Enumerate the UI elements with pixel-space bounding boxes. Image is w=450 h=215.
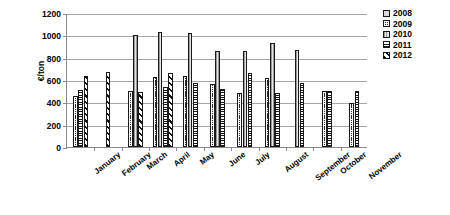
y-axis-tick-label: 600	[47, 76, 61, 86]
bar-march-2010	[133, 35, 138, 147]
legend-item-2008[interactable]: 2008	[383, 9, 412, 17]
y-axis-tick-label: 200	[47, 121, 61, 131]
x-axis-label-january: January	[92, 150, 122, 176]
x-axis-label-april: April	[172, 150, 192, 168]
y-axis-tick-label: 800	[47, 54, 61, 64]
bar-august-2010	[270, 43, 275, 147]
bar-july-2010	[243, 51, 248, 147]
legend-swatch-icon	[383, 10, 390, 17]
x-axis-label-may: May	[198, 150, 216, 167]
bar-september-2011	[300, 83, 305, 147]
y-axis-tick-label: 1000	[42, 31, 61, 41]
x-axis-label-june: June	[226, 150, 246, 169]
bar-may-2010	[188, 33, 193, 147]
bar-july-2011	[248, 73, 253, 147]
bar-april-2012	[168, 73, 173, 147]
bar-may-2011	[193, 83, 198, 147]
y-axis-tick-label: 400	[47, 98, 61, 108]
legend-swatch-icon	[383, 31, 390, 38]
bar-august-2009	[265, 78, 270, 147]
bar-july-2009	[237, 93, 242, 147]
y-axis-tick-label: 0	[56, 143, 61, 153]
bar-january-2011	[78, 90, 83, 147]
legend-swatch-icon	[383, 41, 390, 48]
bar-january-2012	[84, 76, 89, 147]
bar-april-2009	[153, 77, 158, 147]
legend-item-2010[interactable]: 2010	[383, 30, 412, 38]
bar-august-2011	[275, 93, 280, 147]
bar-september-2010	[295, 50, 300, 147]
x-axis-label-july: July	[253, 150, 271, 167]
legend-label: 2010	[393, 30, 412, 38]
bar-february-2012	[106, 72, 111, 147]
legend-label: 2009	[393, 20, 412, 28]
legend-swatch-icon	[383, 20, 390, 27]
bar-november-2009	[349, 103, 354, 147]
x-axis-label-august: August	[283, 150, 310, 174]
bar-april-2010	[158, 32, 163, 147]
y-axis-tick-label: 1200	[42, 9, 61, 19]
bar-november-2011	[355, 91, 360, 147]
bar-october-2009	[322, 91, 327, 147]
legend-label: 2008	[393, 9, 412, 17]
bar-january-2009	[73, 96, 78, 147]
x-axis-labels: JanuaryFebruaryMarchAprilMayJuneJulyAugu…	[66, 150, 367, 210]
bar-chart: €/ton 020040060080010001200 JanuaryFebru…	[0, 0, 450, 215]
bar-october-2011	[327, 91, 332, 147]
bar-june-2011	[220, 89, 225, 147]
bar-june-2009	[210, 84, 215, 147]
legend-swatch-icon	[383, 52, 390, 59]
y-axis-tick	[63, 148, 67, 149]
legend-label: 2012	[393, 51, 412, 59]
legend: 20082009201020112012	[383, 9, 412, 59]
plot-area: 020040060080010001200	[66, 14, 367, 148]
legend-label: 2011	[393, 41, 411, 49]
legend-item-2011[interactable]: 2011	[383, 41, 412, 49]
bar-may-2009	[183, 76, 188, 147]
legend-item-2012[interactable]: 2012	[383, 51, 412, 59]
legend-item-2009[interactable]: 2009	[383, 20, 412, 28]
bars-layer	[67, 14, 367, 147]
bar-june-2010	[215, 51, 220, 147]
bar-march-2009	[128, 91, 133, 147]
bar-march-2012	[138, 92, 143, 147]
x-axis-label-november: November	[368, 150, 404, 181]
y-axis-title: €/ton	[36, 41, 46, 101]
bar-april-2011	[163, 87, 168, 147]
